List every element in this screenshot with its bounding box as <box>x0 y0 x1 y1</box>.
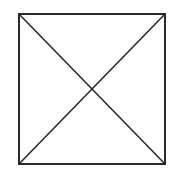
crossed-square-diagram <box>0 0 176 172</box>
